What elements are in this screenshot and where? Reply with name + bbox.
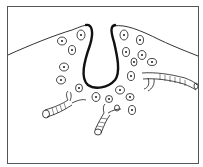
cells bbox=[57, 30, 157, 115]
vessel-left bbox=[43, 91, 87, 118]
vessel-right bbox=[142, 73, 198, 91]
border-frame bbox=[8, 7, 199, 164]
vessel-bottom bbox=[95, 104, 122, 135]
surface-line-left bbox=[8, 25, 90, 55]
invagination-outline bbox=[84, 25, 119, 88]
tissue-diagram bbox=[0, 0, 203, 167]
nuclei bbox=[60, 34, 153, 111]
diagram-frame bbox=[0, 0, 203, 167]
